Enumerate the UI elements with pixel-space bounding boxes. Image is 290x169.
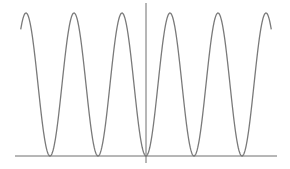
chart: [0, 0, 290, 169]
